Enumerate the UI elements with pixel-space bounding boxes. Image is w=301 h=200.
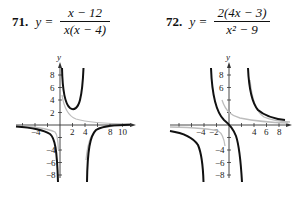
x-axis-arrow-icon: [130, 123, 136, 127]
x-tick-label: 8: [277, 127, 282, 137]
y-tick-label: 2: [50, 108, 55, 118]
x-tick-label: 8: [108, 127, 113, 137]
y-tick-label: 4: [50, 95, 55, 105]
y-tick-label: −6: [46, 158, 56, 168]
y-tick-label: −4: [215, 145, 225, 155]
y-tick-label: −8: [46, 170, 56, 180]
function-curve: [62, 68, 84, 109]
x-tick-label: 10: [118, 127, 128, 137]
y-axis-arrow-icon: [58, 62, 62, 68]
y-tick-label: −8: [215, 170, 225, 180]
function-curve: [248, 68, 285, 120]
x-tick-label: 4: [252, 127, 257, 137]
y-axis-label: y: [56, 52, 61, 62]
y-axis-arrow-icon: [227, 62, 231, 68]
graphs: y −4 2 4 8 10 8 6: [0, 0, 301, 200]
x-tick-label: 4: [83, 127, 88, 137]
function-curve: [170, 131, 204, 182]
y-tick-label: 6: [219, 83, 224, 93]
x-tick-label: −2: [209, 127, 219, 137]
y-tick-label: −6: [215, 158, 225, 168]
graph-72: y −4 −2 4 6 8 8 6: [170, 52, 292, 182]
x-tick-label: 2: [70, 127, 75, 137]
y-tick-label: 6: [50, 83, 55, 93]
y-tick-label: 8: [219, 70, 224, 80]
y-tick-label: 8: [50, 70, 55, 80]
graph-71: y −4 2 4 8 10 8 6: [16, 52, 136, 182]
x-tick-label: 6: [264, 127, 269, 137]
y-axis-label: y: [225, 52, 230, 62]
